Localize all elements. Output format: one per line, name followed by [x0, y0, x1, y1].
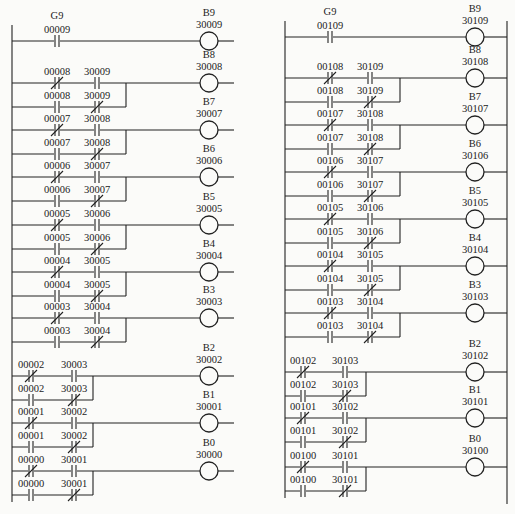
contact-address: 30105 — [357, 273, 383, 284]
contact-address: 30004 — [84, 301, 111, 312]
normally-open-contact: 00001 — [18, 430, 44, 453]
output-coil — [466, 409, 484, 427]
contact-address: 00002 — [18, 383, 44, 394]
contact-address: 00002 — [18, 359, 44, 370]
coil-address: 30107 — [462, 103, 488, 114]
normally-open-contact: 00002 — [18, 383, 44, 406]
rung-b4: B43000400004300050000430005 — [12, 238, 234, 302]
output-coil — [466, 210, 484, 228]
normally-open-contact: 00000 — [18, 478, 44, 501]
ladder-left: B930009G900009B8300080000830009000083000… — [12, 7, 234, 502]
contact-address: 30009 — [84, 66, 110, 77]
normally-open-contact: 30107 — [357, 155, 383, 178]
contact-address: 30003 — [61, 383, 87, 394]
coil-address: 30102 — [462, 350, 488, 361]
normally-open-contact: 00104 — [317, 273, 344, 296]
coil-label: B0 — [469, 433, 481, 444]
contact-address: 00105 — [317, 202, 343, 213]
normally-open-contact: 30108 — [357, 108, 383, 131]
normally-open-contact: 00109 — [317, 20, 343, 43]
contact-address: 30008 — [84, 137, 110, 148]
contact-address: 00102 — [290, 379, 316, 390]
normally-open-contact: 30004 — [84, 301, 111, 324]
coil-label: B5 — [203, 191, 215, 202]
coil-label: B2 — [203, 342, 215, 353]
normally-closed-contact: 00105 — [317, 202, 343, 225]
normally-closed-contact: 00104 — [317, 249, 344, 272]
normally-closed-contact: 00101 — [290, 401, 316, 424]
normally-open-contact: 00004 — [44, 279, 71, 302]
coil-label: B1 — [203, 389, 215, 400]
contact-address: 30009 — [84, 90, 110, 101]
normally-closed-contact: 30002 — [61, 430, 87, 453]
normally-closed-contact: 00004 — [44, 255, 71, 278]
contact-address: 00003 — [44, 325, 70, 336]
contact-address: 00008 — [44, 66, 70, 77]
contact-address: 30001 — [61, 454, 87, 465]
contact-label: G9 — [51, 10, 64, 21]
normally-closed-contact: 30102 — [332, 425, 358, 448]
contact-address: 30104 — [357, 320, 384, 331]
contact-address: 00108 — [317, 61, 343, 72]
contact-address: 30003 — [61, 359, 87, 370]
normally-open-contact: 30008 — [84, 113, 110, 136]
normally-closed-contact: 00001 — [18, 406, 44, 429]
normally-closed-contact: 00100 — [290, 450, 316, 473]
contact-address: 00005 — [44, 232, 70, 243]
normally-open-contact: 30007 — [84, 160, 110, 183]
normally-closed-contact: 30105 — [357, 273, 383, 296]
coil-address: 30007 — [196, 108, 222, 119]
normally-open-contact: 00108 — [317, 85, 343, 108]
contact-address: 00001 — [18, 406, 44, 417]
coil-label: B9 — [203, 7, 215, 18]
output-coil — [200, 367, 218, 385]
rung-b6: B63000600006300070000630007 — [12, 143, 234, 207]
contact-address: 00103 — [317, 296, 343, 307]
normally-closed-contact: 00102 — [290, 355, 316, 378]
normally-open-contact: 00007 — [44, 137, 70, 160]
output-coil — [200, 216, 218, 234]
output-coil — [200, 74, 218, 92]
contact-address: 30006 — [84, 208, 110, 219]
contact-address: 00100 — [290, 450, 316, 461]
normally-open-contact: 00102 — [290, 379, 316, 402]
rung-b3: B33010300103301040010330104 — [285, 279, 507, 343]
contact-address: 00007 — [44, 137, 70, 148]
contact-address: 30109 — [357, 61, 383, 72]
normally-open-contact: 00005 — [44, 232, 70, 255]
contact-address: 30005 — [84, 255, 110, 266]
coil-address: 30103 — [462, 291, 488, 302]
contact-address: 30106 — [357, 226, 383, 237]
coil-label: B9 — [469, 3, 481, 14]
rung-b0: B03010000100301010010030101 — [285, 433, 507, 497]
normally-open-contact: 30106 — [357, 202, 383, 225]
contact-address: 30102 — [332, 401, 358, 412]
normally-closed-contact: 30003 — [61, 383, 87, 406]
contact-address: 00107 — [317, 108, 343, 119]
coil-address: 30001 — [196, 401, 222, 412]
contact-address: 30005 — [84, 279, 110, 290]
contact-address: 30108 — [357, 108, 383, 119]
output-coil — [200, 414, 218, 432]
normally-closed-contact: 00005 — [44, 208, 70, 231]
contact-address: 00106 — [317, 155, 343, 166]
coil-label: B8 — [469, 44, 481, 55]
normally-open-contact: 30003 — [61, 359, 87, 382]
normally-closed-contact: 30103 — [332, 379, 358, 402]
ladder-right: B930109G900109B8301080010830109001083010… — [285, 3, 507, 504]
contact-address: 30103 — [332, 379, 358, 390]
coil-address: 30003 — [196, 296, 222, 307]
coil-label: B0 — [203, 437, 215, 448]
contact-address: 00104 — [317, 249, 344, 260]
contact-address: 30002 — [61, 430, 87, 441]
normally-open-contact: 30101 — [332, 450, 358, 473]
rung-b9: B930109G900109 — [285, 3, 507, 46]
output-coil — [466, 257, 484, 275]
contact-address: 30007 — [84, 184, 110, 195]
output-coil — [466, 69, 484, 87]
normally-open-contact: 30103 — [332, 355, 358, 378]
output-coil — [466, 304, 484, 322]
coil-address: 30004 — [196, 250, 223, 261]
coil-address: 30109 — [462, 15, 488, 26]
coil-address: 30009 — [196, 19, 222, 30]
